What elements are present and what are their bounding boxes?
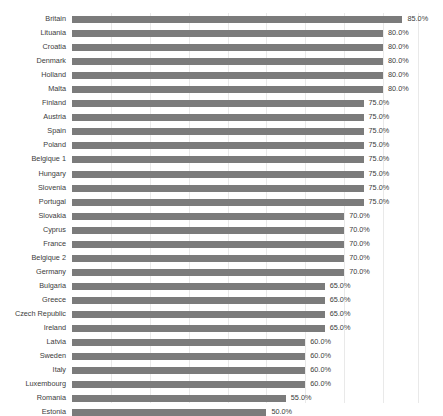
value-label: 65.0% <box>325 293 351 307</box>
value-label: 65.0% <box>325 279 351 293</box>
bar-row: Italy60.0% <box>72 364 418 378</box>
bar-row: Bulgaria65.0% <box>72 280 418 294</box>
category-label: Latvia <box>47 335 66 349</box>
bar-row: Slovakia70.0% <box>72 210 418 224</box>
value-label: 80.0% <box>383 54 409 68</box>
value-label: 70.0% <box>344 265 370 279</box>
value-label: 85.0% <box>402 12 428 26</box>
category-label: Spain <box>47 124 66 138</box>
category-label: Luxembourg <box>25 377 66 391</box>
category-label: Czech Republic <box>15 307 66 321</box>
bar-row: Estonia50.0% <box>72 406 418 416</box>
bar <box>72 44 383 51</box>
bar-row: Croatia80.0% <box>72 41 418 55</box>
bar <box>72 311 325 318</box>
bar <box>72 283 325 290</box>
value-label: 60.0% <box>305 363 331 377</box>
value-label: 65.0% <box>325 321 351 335</box>
bar <box>72 353 305 360</box>
bar-row: Spain75.0% <box>72 125 418 139</box>
category-label: Denmark <box>36 54 66 68</box>
category-label: Germany <box>36 265 66 279</box>
bar <box>72 241 344 248</box>
bar-row: Poland75.0% <box>72 139 418 153</box>
bar-row: Romania55.0% <box>72 392 418 406</box>
bar <box>72 58 383 65</box>
value-label: 60.0% <box>305 335 331 349</box>
bar-row: Sweden60.0% <box>72 350 418 364</box>
bar-row: France70.0% <box>72 238 418 252</box>
value-label: 60.0% <box>305 377 331 391</box>
bar <box>72 185 364 192</box>
value-label: 75.0% <box>364 138 390 152</box>
value-label: 70.0% <box>344 237 370 251</box>
category-label: Britain <box>45 12 66 26</box>
category-label: Slovakia <box>38 209 66 223</box>
category-label: Greece <box>42 293 66 307</box>
value-label: 80.0% <box>383 68 409 82</box>
bar-row: Slovenia75.0% <box>72 182 418 196</box>
value-label: 80.0% <box>383 26 409 40</box>
bar <box>72 325 325 332</box>
category-label: Belgique 2 <box>32 251 67 265</box>
category-label: Slovenia <box>38 181 66 195</box>
value-label: 75.0% <box>364 96 390 110</box>
category-label: France <box>43 237 66 251</box>
bar-row: Belgique 270.0% <box>72 252 418 266</box>
value-label: 65.0% <box>325 307 351 321</box>
category-label: Hungary <box>38 167 66 181</box>
value-label: 80.0% <box>383 40 409 54</box>
bar <box>72 86 383 93</box>
bar <box>72 395 286 402</box>
bar-row: Czech Republic65.0% <box>72 308 418 322</box>
bar <box>72 30 383 37</box>
bar <box>72 114 364 121</box>
bar-row: Greece65.0% <box>72 294 418 308</box>
bar <box>72 16 402 23</box>
category-label: Cyprus <box>43 223 66 237</box>
bar <box>72 213 344 220</box>
gridline <box>418 13 419 403</box>
value-label: 70.0% <box>344 209 370 223</box>
bar <box>72 255 344 262</box>
bar-row: Denmark80.0% <box>72 55 418 69</box>
value-label: 75.0% <box>364 110 390 124</box>
bar <box>72 100 364 107</box>
bar-row: Finland75.0% <box>72 97 418 111</box>
bar-row: Latvia60.0% <box>72 336 418 350</box>
bar-rows: Britain85.0%Lituania80.0%Croatia80.0%Den… <box>72 13 418 403</box>
bar-row: Belgique 175.0% <box>72 153 418 167</box>
bar-row: Cyprus70.0% <box>72 224 418 238</box>
bar-row: Austria75.0% <box>72 111 418 125</box>
bar <box>72 269 344 276</box>
bar <box>72 227 344 234</box>
category-label: Austria <box>43 110 66 124</box>
bar-row: Luxembourg60.0% <box>72 378 418 392</box>
bar-row: Hungary75.0% <box>72 168 418 182</box>
bar-row: Ireland65.0% <box>72 322 418 336</box>
bar <box>72 199 364 206</box>
bar-row: Britain85.0% <box>72 13 418 27</box>
category-label: Bulgaria <box>39 279 66 293</box>
value-label: 70.0% <box>344 223 370 237</box>
bar <box>72 297 325 304</box>
bar <box>72 171 364 178</box>
bar-row: Lituania80.0% <box>72 27 418 41</box>
value-label: 75.0% <box>364 195 390 209</box>
category-label: Portugal <box>39 195 66 209</box>
bar <box>72 72 383 79</box>
category-label: Malta <box>48 82 66 96</box>
bar <box>72 339 305 346</box>
value-label: 75.0% <box>364 124 390 138</box>
category-label: Ireland <box>44 321 66 335</box>
bar-row: Germany70.0% <box>72 266 418 280</box>
category-label: Finland <box>42 96 66 110</box>
value-label: 75.0% <box>364 152 390 166</box>
category-label: Italy <box>53 363 66 377</box>
plot-area: Britain85.0%Lituania80.0%Croatia80.0%Den… <box>72 13 418 403</box>
bar <box>72 128 364 135</box>
category-label: Croatia <box>42 40 66 54</box>
value-label: 75.0% <box>364 181 390 195</box>
bar <box>72 367 305 374</box>
bar-row: Malta80.0% <box>72 83 418 97</box>
